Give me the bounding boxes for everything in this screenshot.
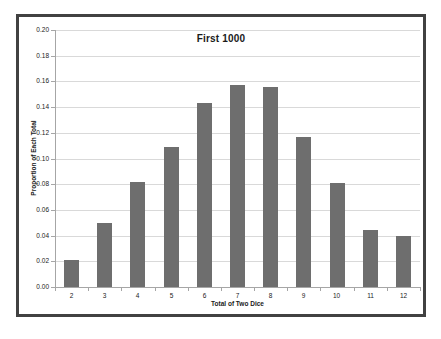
bar [230, 85, 245, 287]
x-tick-mark [155, 288, 156, 291]
x-tick-mark [320, 288, 321, 291]
y-tick-label: 0.20 [19, 26, 49, 34]
gridline [55, 30, 420, 31]
gridline [55, 81, 420, 82]
x-tick-mark [188, 288, 189, 291]
chart-title: First 1000 [19, 33, 423, 44]
bar [97, 223, 112, 287]
y-tick-label: 0.02 [19, 257, 49, 265]
y-tick-label: 0.18 [19, 52, 49, 60]
x-axis-title: Total of Two Dice [55, 300, 420, 307]
x-tick-label: 6 [188, 292, 221, 300]
bar [164, 147, 179, 287]
bar [64, 260, 79, 287]
x-tick-mark [121, 288, 122, 291]
x-tick-label: 9 [287, 292, 320, 300]
x-tick-mark [287, 288, 288, 291]
x-tick-label: 3 [88, 292, 121, 300]
x-tick-label: 2 [55, 292, 88, 300]
x-tick-mark [387, 288, 388, 291]
x-tick-label: 10 [320, 292, 353, 300]
x-tick-mark [221, 288, 222, 291]
y-tick-label: 0.16 [19, 77, 49, 85]
x-tick-label: 7 [221, 292, 254, 300]
bar [130, 182, 145, 287]
y-axis-line [55, 30, 56, 287]
gridline [55, 56, 420, 57]
x-tick-mark [420, 288, 421, 291]
x-tick-label: 11 [354, 292, 387, 300]
x-tick-mark [88, 288, 89, 291]
y-tick-label: 0.12 [19, 129, 49, 137]
bar [330, 183, 345, 287]
screenshot-canvas: First 1000 Proportion of Each Total 0.00… [0, 0, 441, 339]
x-tick-mark [254, 288, 255, 291]
x-tick-mark [354, 288, 355, 291]
x-tick-label: 4 [121, 292, 154, 300]
bar [296, 137, 311, 287]
chart-frame: First 1000 Proportion of Each Total 0.00… [16, 14, 426, 317]
x-axis-line [55, 287, 421, 288]
y-tick-label: 0.04 [19, 232, 49, 240]
x-tick-label: 5 [155, 292, 188, 300]
y-tick-label: 0.14 [19, 103, 49, 111]
x-tick-label: 12 [387, 292, 420, 300]
chart-area: First 1000 Proportion of Each Total 0.00… [19, 17, 423, 314]
y-tick-label: 0.00 [19, 283, 49, 291]
y-tick-label: 0.08 [19, 180, 49, 188]
x-tick-mark [55, 288, 56, 291]
bar [263, 87, 278, 287]
x-tick-label: 8 [254, 292, 287, 300]
bar [363, 230, 378, 287]
y-tick-label: 0.10 [19, 155, 49, 163]
bar [197, 103, 212, 287]
bar [396, 236, 411, 287]
y-tick-label: 0.06 [19, 206, 49, 214]
